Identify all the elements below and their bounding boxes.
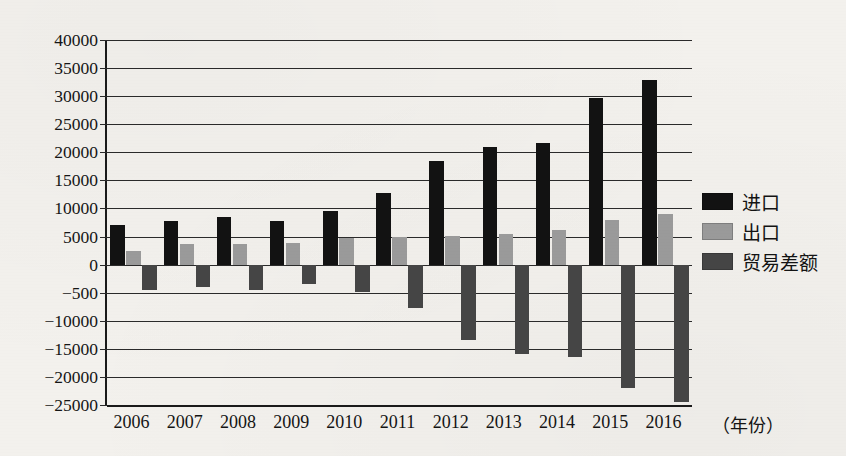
y-axis-tick-label: −500	[0, 282, 98, 303]
legend-item-balance: 贸易差额	[702, 246, 842, 276]
x-axis-tick-label: 2010	[326, 412, 362, 433]
legend-label-import: 进口	[742, 188, 780, 215]
bar-balance	[621, 265, 636, 389]
y-axis-tick	[100, 377, 107, 378]
bar-import	[110, 225, 125, 264]
bar-group	[267, 40, 320, 405]
plot-area	[105, 40, 690, 405]
x-axis-tick-label: 2016	[645, 412, 681, 433]
bar-import	[589, 98, 604, 265]
y-axis-tick	[100, 237, 107, 238]
bar-export	[180, 244, 195, 265]
bar-group	[639, 40, 692, 405]
y-axis-tick	[100, 40, 107, 41]
y-axis-tick	[100, 152, 107, 153]
bar-import	[536, 143, 551, 265]
y-axis-tick	[100, 96, 107, 97]
bar-import	[217, 217, 232, 264]
bar-export	[126, 251, 141, 265]
bar-series-container	[107, 40, 692, 405]
bar-balance	[249, 265, 264, 290]
bar-import	[323, 211, 338, 265]
y-axis-tick	[100, 265, 107, 266]
y-axis-tick-label: 0	[0, 254, 98, 275]
y-axis-tick-label: 25000	[0, 114, 98, 135]
bar-group	[479, 40, 532, 405]
chart-legend: 进口 出口 贸易差额	[702, 186, 842, 276]
y-axis-tick-label: −25000	[0, 395, 98, 416]
y-axis-tick	[100, 180, 107, 181]
bar-balance	[302, 265, 317, 285]
bar-import	[483, 147, 498, 264]
y-axis-tick	[100, 405, 107, 406]
x-axis-tick-label: 2011	[380, 412, 415, 433]
bar-export	[339, 238, 354, 265]
x-axis-tick-label: 2015	[592, 412, 628, 433]
gridline	[107, 405, 692, 407]
y-axis-tick	[100, 349, 107, 350]
y-axis-tick-label: −10000	[0, 310, 98, 331]
bar-export	[233, 244, 248, 264]
bar-export	[552, 230, 567, 265]
x-axis-tick-label: 2014	[539, 412, 575, 433]
bar-import	[429, 161, 444, 264]
y-axis-tick	[100, 124, 107, 125]
bar-group	[426, 40, 479, 405]
bar-balance	[568, 265, 583, 358]
legend-item-import: 进口	[702, 186, 842, 216]
y-axis-tick	[100, 293, 107, 294]
legend-swatch-export	[702, 223, 733, 240]
y-axis-tick	[100, 321, 107, 322]
y-axis-tick-label: −15000	[0, 338, 98, 359]
x-axis-tick-label: 2013	[486, 412, 522, 433]
bar-export	[658, 214, 673, 265]
bar-group	[586, 40, 639, 405]
y-axis-tick-label: 10000	[0, 198, 98, 219]
bar-import	[642, 80, 657, 264]
bar-export	[445, 236, 460, 265]
y-axis-tick-label: 15000	[0, 170, 98, 191]
y-axis-tick-label: 40000	[0, 30, 98, 51]
y-axis-tick-label: −20000	[0, 366, 98, 387]
bar-group	[213, 40, 266, 405]
y-axis-tick-label: 5000	[0, 226, 98, 247]
bar-import	[270, 221, 285, 264]
y-axis-tick-label: 20000	[0, 142, 98, 163]
bar-import	[164, 221, 179, 264]
bar-balance	[408, 265, 423, 309]
x-axis-tick-label: 2008	[220, 412, 256, 433]
bar-export	[605, 220, 620, 265]
y-axis-tick-label: 35000	[0, 58, 98, 79]
bar-balance	[355, 265, 370, 292]
bar-group	[160, 40, 213, 405]
bar-group	[373, 40, 426, 405]
bar-group	[320, 40, 373, 405]
legend-swatch-balance	[702, 253, 733, 270]
bar-balance	[674, 265, 689, 403]
bar-balance	[196, 265, 211, 287]
bar-import	[376, 193, 391, 265]
bar-export	[392, 237, 407, 265]
y-axis-tick-label: 30000	[0, 86, 98, 107]
y-axis-tick	[100, 208, 107, 209]
bar-group	[107, 40, 160, 405]
bar-balance	[142, 265, 157, 290]
x-axis-tick-label: 2009	[273, 412, 309, 433]
bar-balance	[515, 265, 530, 355]
bar-group	[532, 40, 585, 405]
legend-swatch-import	[702, 193, 733, 210]
x-axis-tick-label: 2006	[114, 412, 150, 433]
legend-item-export: 出口	[702, 216, 842, 246]
bar-balance	[461, 265, 476, 341]
legend-label-balance: 贸易差额	[742, 248, 818, 275]
legend-label-export: 出口	[742, 218, 780, 245]
y-axis-tick	[100, 68, 107, 69]
chart-figure: 4000035000300002500020000150001000050000…	[0, 0, 846, 456]
x-axis-tick-label: 2007	[167, 412, 203, 433]
x-axis-title: （年份）	[712, 411, 784, 437]
bar-export	[499, 234, 514, 265]
x-axis-tick-label: 2012	[433, 412, 469, 433]
bar-export	[286, 243, 301, 265]
